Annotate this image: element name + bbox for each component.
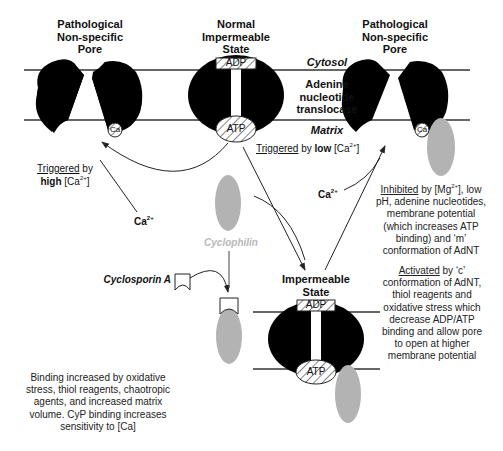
title-line: State <box>186 43 286 56</box>
title-line: Pathological <box>40 18 140 31</box>
left-ca-label: Ca <box>107 125 123 134</box>
text-line: (which increases ATP <box>366 221 496 233</box>
underlined-text: Activated <box>399 265 440 276</box>
title-line: Impermeable <box>266 273 366 286</box>
text-line: oxidative stress which <box>372 302 492 314</box>
text: by <box>80 163 93 174</box>
title-line: Pore <box>345 43 445 56</box>
text: by [Mg <box>418 184 451 195</box>
text-line: membrane potential <box>366 208 496 220</box>
text-line: volume. CyP binding increases <box>18 409 178 421</box>
title-line: Pathological <box>345 18 445 31</box>
text-line: binding) and ‘m’ <box>366 233 496 245</box>
title-line: Impermeable <box>186 31 286 44</box>
charge: 2+ <box>147 215 154 221</box>
text: ], low <box>458 184 481 195</box>
normal-adp-label: ADP <box>216 57 256 69</box>
text-line: to open at higher <box>372 338 492 350</box>
charge: 2+ <box>80 175 87 181</box>
normal-atp-label: ATP <box>216 123 256 135</box>
ca-left-ion-label: Ca2+ <box>134 215 174 228</box>
underlined-text: Triggered <box>37 163 79 174</box>
title-line: State <box>266 286 366 299</box>
text-line: thiol reagents and <box>372 289 492 301</box>
inhibited-annotation: Inhibited by [Mg2+], low pH, adenine nuc… <box>366 183 496 257</box>
title-line: Pore <box>40 43 140 56</box>
text-line: Binding increased by oxidative <box>18 372 178 384</box>
cyclosporin-label: Cyclosporin A <box>96 274 171 286</box>
charge: 2+ <box>331 188 338 194</box>
title-line: Normal <box>186 18 286 31</box>
text-line: sensitivity to [Ca] <box>18 421 178 433</box>
arrow-to-left-pore <box>102 142 228 171</box>
triggered-high-annotation: Triggered by high [Ca2+] <box>20 163 110 187</box>
cyclosporin-shape <box>175 274 190 290</box>
right-ca-label: Ca <box>414 125 430 134</box>
binding-note: Binding increased by oxidative stress, t… <box>18 372 178 433</box>
cyclophilin-cyclosporin-complex <box>216 298 242 364</box>
text-line: membrane potential <box>372 350 492 362</box>
protein-label-line: translocase <box>282 103 372 116</box>
impermeable-atp-label: ATP <box>296 366 336 378</box>
right-cyclophilin <box>427 118 455 176</box>
cyclophilin-label: Cyclophilin <box>196 237 266 249</box>
cyclophilin-to-impermeable-line <box>254 196 305 260</box>
impermeable-state-protein <box>268 300 364 423</box>
bold-text: low <box>315 143 332 154</box>
text: Ca <box>134 216 147 227</box>
text-line: binding and allow pore <box>372 326 492 338</box>
text-line: conformation of AdNT <box>366 245 496 257</box>
text: ] <box>87 176 90 187</box>
left-pore-title: Pathological Non-specific Pore <box>40 18 140 56</box>
title-line: Non-specific <box>345 31 445 44</box>
normal-state-title: Normal Impermeable State <box>186 18 286 56</box>
text-line: agents, and increased matrix <box>18 396 178 408</box>
text: by ‘c’ <box>440 265 466 276</box>
protein-label: Adenine nucleotide translocase <box>282 78 372 116</box>
text: [Ca <box>331 143 349 154</box>
underlined-text: Triggered <box>256 143 298 154</box>
text-line: stress, thiol reagents, chaotropic <box>18 384 178 396</box>
matrix-label: Matrix <box>282 124 372 137</box>
underlined-text: Inhibited <box>381 184 419 195</box>
right-pore-title: Pathological Non-specific Pore <box>345 18 445 56</box>
text: Ca <box>318 189 331 200</box>
text-line: pH, adenine nucleotides, <box>366 196 496 208</box>
text: ] <box>356 143 359 154</box>
ca-right-ion-label: Ca2+ <box>318 188 358 201</box>
text: [Ca <box>62 176 80 187</box>
impermeable-state-title: Impermeable State <box>266 273 366 298</box>
cytosol-label: Cytosol <box>282 56 372 69</box>
text: by <box>298 143 314 154</box>
protein-label-line: nucleotide <box>282 91 372 104</box>
title-line: Non-specific <box>40 31 140 44</box>
text-line: conformation of AdNT, <box>372 277 492 289</box>
protein-label-line: Adenine <box>282 78 372 91</box>
bold-text: high <box>40 176 61 187</box>
free-cyclophilin <box>215 175 241 231</box>
impermeable-adp-label: ADP <box>297 299 335 311</box>
text-line: decrease ADP/ATP <box>372 314 492 326</box>
activated-annotation: Activated by ‘c’ conformation of AdNT, t… <box>372 265 492 363</box>
triggered-low-annotation: Triggered by low [Ca2+] <box>256 142 386 155</box>
binding-arrow <box>190 271 228 292</box>
